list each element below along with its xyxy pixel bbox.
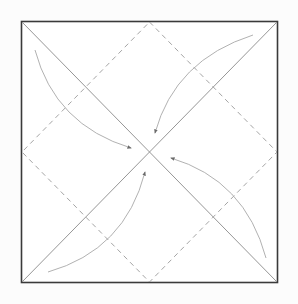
diagram-canvas: [0, 0, 298, 304]
fold-diagram: [0, 0, 298, 304]
